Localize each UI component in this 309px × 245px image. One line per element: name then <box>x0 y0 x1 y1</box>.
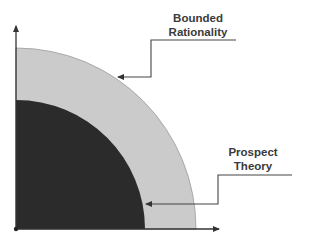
bounded-rationality-label-line1: Bounded <box>160 11 236 25</box>
nested-theory-diagram <box>0 0 309 245</box>
origin-point <box>14 227 18 231</box>
prospect-theory-label: Prospect Theory <box>220 145 286 173</box>
bounded-rationality-label: Bounded Rationality <box>160 11 236 39</box>
bounded-rationality-label-line2: Rationality <box>160 25 236 39</box>
prospect-theory-label-line2: Theory <box>220 159 286 173</box>
prospect-theory-label-line1: Prospect <box>220 145 286 159</box>
bounded-rationality-leader-arrow <box>118 40 236 77</box>
